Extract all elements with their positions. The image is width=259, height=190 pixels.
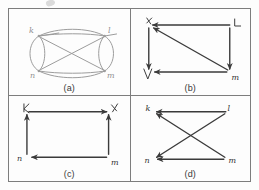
panel-d-vertex-label-l: l [228, 105, 231, 113]
edge-m-to-k-diagonal [153, 28, 227, 70]
panel-c-caption: (c) [9, 169, 130, 179]
panel-a-vertex-label-n: n [30, 72, 35, 80]
vertex-dot-m [103, 70, 105, 72]
panel-a: k l n m (a) [9, 9, 130, 95]
panel-d-vertex-label-k: k [146, 105, 151, 113]
panel-a-vertex-label-k: k [29, 27, 34, 35]
panel-grid: k l n m (a) [8, 8, 251, 182]
panel-c: k l n m (c) [9, 95, 130, 181]
vertex-dot-l [103, 35, 105, 37]
vertex-dot-n [38, 70, 40, 72]
vertex-dot-k [38, 35, 40, 37]
panel-d-vertex-label-n: n [145, 157, 150, 165]
edge-k-n-left-loop-inner [39, 36, 45, 71]
panel-d-caption: (d) [131, 169, 251, 179]
panel-c-vertex-label-m: m [111, 159, 119, 167]
pencil-smudge-mark [45, 0, 55, 7]
panel-b-vertex-label-m: m [232, 74, 240, 82]
edge-n-m-curve-inner [39, 71, 105, 73]
panel-a-vertex-label-l: l [108, 27, 111, 35]
figure-container: k l n m (a) [0, 0, 259, 190]
panel-c-vertex-label-n: n [17, 155, 22, 163]
edge-l-m-right-loop [105, 36, 114, 71]
panel-d-vertex-label-m: m [229, 157, 237, 165]
panel-b-caption: (b) [131, 83, 251, 93]
panel-a-caption: (a) [9, 83, 130, 93]
edge-k-n-left-loop [30, 36, 39, 71]
panel-b: k l v m (b) [130, 9, 251, 95]
panel-a-vertex-label-m: m [107, 72, 115, 80]
edge-l-m-right-loop-inner [99, 36, 105, 71]
panel-d: k l n m (d) [130, 95, 251, 181]
